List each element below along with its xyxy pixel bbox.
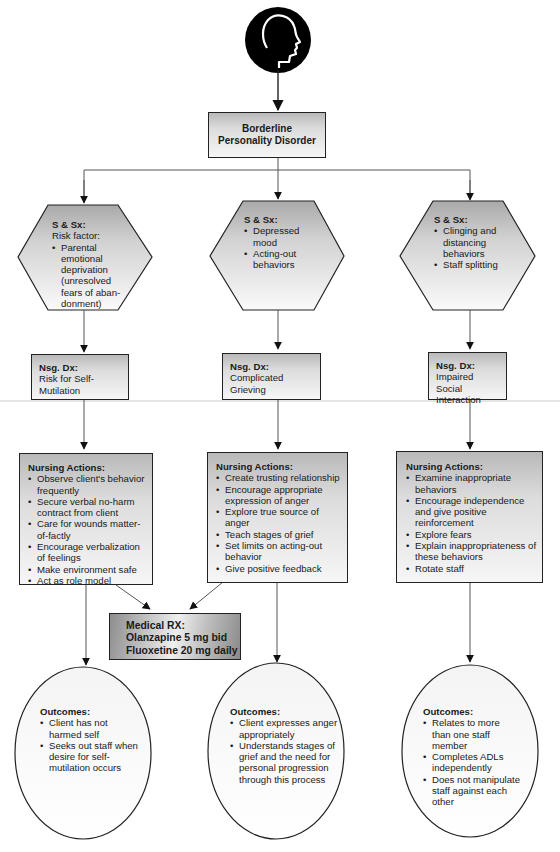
outcomes-left: Outcomes: Client has not harmed self See… xyxy=(40,706,140,774)
actions-header: Nursing Actions: xyxy=(406,461,539,472)
outcome-item: Completes ADLs independently xyxy=(423,751,521,774)
rx-header: Medical RX: xyxy=(126,620,240,632)
nursing-actions-right: Nursing Actions: Examine inappropriate b… xyxy=(396,451,543,583)
action-item: Encourage appropriate expression of ange… xyxy=(216,484,344,507)
outcome-item: Does not manipulate staff against each o… xyxy=(423,774,521,808)
ss-item: Clinging and distancing behaviors xyxy=(434,225,514,259)
dx-text: Complicated Grieving xyxy=(230,372,283,394)
ss-item: Staff splitting xyxy=(434,259,514,270)
action-item: Make environment safe xyxy=(28,564,148,575)
ss-header: S & Sx: xyxy=(244,214,316,225)
head-profile-icon xyxy=(245,7,311,73)
nursing-diagnosis-right: Nsg. Dx: Impaired Social Interaction xyxy=(428,352,507,400)
nursing-diagnosis-middle: Nsg. Dx: Complicated Grieving xyxy=(222,353,321,400)
dx-header: Nsg. Dx: xyxy=(39,362,128,373)
diagnosis-title-box: Borderline Personality Disorder xyxy=(208,112,326,158)
action-item: Encourage independence and give positive… xyxy=(406,495,539,529)
signs-symptoms-middle: S & Sx: Depressed mood Acting-out behavi… xyxy=(244,214,316,270)
outcomes-middle: Outcomes: Client expresses anger appropr… xyxy=(230,706,340,785)
outcome-item: Understands stages of grief and the need… xyxy=(230,740,340,785)
action-item: Set limits on acting-out behavior xyxy=(216,540,344,563)
action-item: Create trusting relationship xyxy=(216,472,344,483)
ss-header: S & Sx: xyxy=(434,214,514,225)
action-item: Act as role model xyxy=(28,575,148,586)
ss-subheader: Risk factor: xyxy=(52,230,124,241)
action-item: Examine inappropriate behaviors xyxy=(406,472,539,495)
action-item: Encourage verbalization of feelings xyxy=(28,541,148,564)
outcome-item: Seeks out staff when desire for self-mut… xyxy=(40,740,140,774)
outcomes-header: Outcomes: xyxy=(423,706,521,717)
outcome-item: Client has not harmed self xyxy=(40,717,140,740)
nursing-actions-middle: Nursing Actions: Create trusting relatio… xyxy=(207,452,348,583)
action-item: Secure verbal no-harm contract from clie… xyxy=(28,496,148,519)
action-item: Rotate staff xyxy=(406,563,539,574)
outcome-item: Relates to more than one staff member xyxy=(423,717,521,751)
nursing-diagnosis-left: Nsg. Dx: Risk for Self-Mutilation xyxy=(31,354,129,400)
title-line-2: Personality Disorder xyxy=(218,135,316,146)
nursing-actions-left: Nursing Actions: Observe client's behavi… xyxy=(19,453,153,585)
ss-header: S & Sx: xyxy=(52,219,124,230)
outcome-item: Client expresses anger appropriately xyxy=(230,717,340,740)
actions-header: Nursing Actions: xyxy=(28,462,148,473)
outcomes-right: Outcomes: Relates to more than one staff… xyxy=(423,706,521,808)
action-item: Give positive feedback xyxy=(216,563,344,574)
dx-text: Impaired Social Interaction xyxy=(436,371,481,405)
signs-symptoms-right: S & Sx: Clinging and distancing behavior… xyxy=(434,214,514,270)
outcomes-header: Outcomes: xyxy=(230,706,340,717)
rx-line: Olanzapine 5 mg bid xyxy=(126,632,240,644)
action-item: Explore true source of anger xyxy=(216,506,344,529)
ss-item: Parental emotional deprivation (unresolv… xyxy=(52,242,124,310)
dx-header: Nsg. Dx: xyxy=(230,361,320,372)
action-item: Explain inappropriateness of these behav… xyxy=(406,540,539,563)
ss-item: Depressed mood xyxy=(244,225,316,248)
signs-symptoms-left: S & Sx: Risk factor: Parental emotional … xyxy=(52,219,124,309)
action-item: Teach stages of grief xyxy=(216,529,344,540)
outcomes-header: Outcomes: xyxy=(40,706,140,717)
actions-header: Nursing Actions: xyxy=(216,461,344,472)
title-line-1: Borderline xyxy=(242,123,292,134)
rx-line: Fluoxetine 20 mg daily xyxy=(126,645,240,657)
dx-text: Risk for Self-Mutilation xyxy=(39,373,94,395)
action-item: Observe client's behavior frequently xyxy=(28,473,148,496)
action-item: Care for wounds matter-of-factly xyxy=(28,518,148,541)
dx-header: Nsg. Dx: xyxy=(436,360,502,371)
medical-rx-box: Medical RX: Olanzapine 5 mg bid Fluoxeti… xyxy=(109,613,241,660)
action-item: Explore fears xyxy=(406,529,539,540)
ss-item: Acting-out behaviors xyxy=(244,248,316,271)
